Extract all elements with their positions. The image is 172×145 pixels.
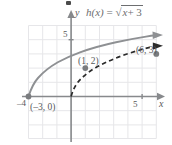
grid-lines [29, 26, 157, 139]
radicand-text: x+ 3 [121, 5, 142, 18]
y-axis-label: y [75, 8, 79, 18]
y-axis [67, 10, 74, 142]
coordinate-plane [0, 0, 172, 145]
graph-figure: h(x) = √x+ 3 y x 5 5 –4 (1, 2) (6, 3) (–… [0, 0, 172, 145]
x-tick-label-5: 5 [133, 100, 138, 109]
function-expression-label: h(x) = √x+ 3 [86, 7, 143, 18]
point-marker-neg3-0 [26, 94, 32, 100]
x-axis [22, 93, 165, 101]
x-tick-label-negative-4: –4 [17, 99, 26, 108]
y-tick-label-5: 5 [63, 30, 68, 39]
function-name-text: h(x) [86, 6, 104, 18]
equals-sign: = [106, 6, 112, 18]
point-label-1-2: (1, 2) [78, 57, 99, 67]
point-label-6-3: (6, 3) [136, 46, 157, 56]
point-label-negative-3-0: (–3, 0) [30, 103, 55, 113]
x-axis-label: x [159, 99, 163, 109]
